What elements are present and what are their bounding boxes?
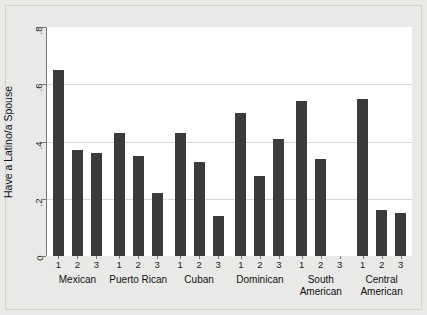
x-axis-tick-label: 1 [51, 259, 65, 270]
bar [235, 113, 246, 256]
x-axis-tick-label: 3 [211, 259, 225, 270]
bar [357, 99, 368, 256]
bar [175, 133, 186, 256]
x-axis-tick-label: 2 [253, 259, 267, 270]
bar [296, 101, 307, 256]
y-axis-tick-mark [41, 199, 46, 200]
x-axis-tick-label: 2 [192, 259, 206, 270]
x-axis-tick-label: 1 [173, 259, 187, 270]
group-label-line2: American [332, 286, 427, 297]
bar [395, 213, 406, 256]
gridline [47, 84, 412, 85]
plot-inner [47, 27, 412, 256]
bar [114, 133, 125, 256]
bar [152, 193, 163, 256]
bar [376, 210, 387, 256]
bar [194, 162, 205, 256]
x-axis-tick-label: 2 [375, 259, 389, 270]
x-axis-tick-label: 1 [112, 259, 126, 270]
x-axis-tick-label: 3 [150, 259, 164, 270]
x-axis-tick-label: 2 [314, 259, 328, 270]
x-axis-tick-label: 1 [356, 259, 370, 270]
group-label-line1: Central [365, 274, 397, 285]
x-axis-tick-label: 3 [272, 259, 286, 270]
bar [91, 153, 102, 256]
bar [273, 139, 284, 256]
y-axis-tick-mark [41, 27, 46, 28]
x-axis-tick-label: 3 [333, 259, 347, 270]
x-axis-tick-label: 1 [295, 259, 309, 270]
chart-figure: Have a Latino/a Spouse 0.2.4.6.8 123Mexi… [0, 0, 427, 315]
bar [213, 216, 224, 256]
y-axis-tick-mark [41, 256, 46, 257]
x-axis-tick-label: 2 [70, 259, 84, 270]
bar [315, 159, 326, 256]
bar [133, 156, 144, 256]
y-axis-tick-mark [41, 142, 46, 143]
bar [254, 176, 265, 256]
y-axis-tick-mark [41, 84, 46, 85]
x-axis-tick-label: 3 [394, 259, 408, 270]
y-axis-tick-labels: 0.2.4.6.8 [0, 0, 39, 315]
bar [72, 150, 83, 256]
group-label-line1: South [308, 274, 334, 285]
x-axis-tick-label: 3 [89, 259, 103, 270]
x-axis-tick-label: 1 [234, 259, 248, 270]
x-axis-tick-label: 2 [131, 259, 145, 270]
bar [53, 70, 64, 256]
plot-area [47, 27, 412, 256]
group-label: CentralAmerican [332, 274, 427, 297]
